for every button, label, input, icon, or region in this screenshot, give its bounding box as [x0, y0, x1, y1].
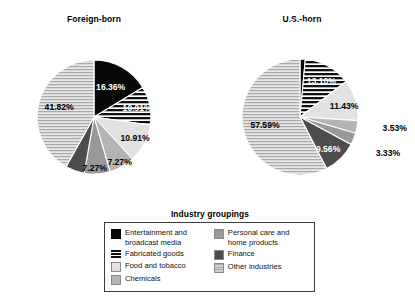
legend-item[interactable]: Personal care and home products — [214, 228, 308, 247]
legend-swatch-very-light-gray-icon — [111, 262, 121, 272]
pie-slice-label: 9.56% — [316, 144, 341, 154]
pie-slice-label: 7.27% — [107, 157, 132, 167]
pie-slice-label: 3.53% — [383, 123, 408, 133]
pie-slice-label: 5.45% — [56, 187, 81, 197]
pie-slice-label: 57.59% — [250, 120, 280, 130]
pie-slice-label: 3.33% — [376, 148, 401, 158]
legend-item[interactable]: Other industries — [214, 262, 308, 273]
pie-slice-label: 13.10% — [307, 76, 337, 86]
pie-chart-us-born: 1.46%13.10%11.43%3.53%3.33%9.56%57.59% — [240, 57, 360, 177]
legend-item-label: Personal care and home products — [228, 228, 290, 247]
pie-slice-label: 11.43% — [330, 101, 359, 111]
legend-item-label: Finance — [228, 249, 255, 259]
legend-item-label: Fabricated goods — [125, 249, 184, 259]
legend-item[interactable]: Finance — [214, 249, 308, 260]
legend-item[interactable]: Food and tobacco — [111, 261, 214, 272]
pie-slice-label: 10.91% — [123, 103, 153, 113]
legend-swatch-medium-gray-icon — [111, 275, 121, 285]
legend-item[interactable]: Entertainment and broadcast media — [111, 228, 214, 247]
pie-title-foreign-born: Foreign-born — [44, 14, 144, 24]
legend-swatch-dark-gray-icon — [214, 250, 224, 260]
legend-swatch-gray-icon — [214, 229, 224, 239]
legend-swatch-light-gray-horizontal-lines-icon — [214, 263, 224, 273]
legend-column-left: Entertainment and broadcast mediaFabrica… — [111, 228, 214, 287]
legend-item-label: Other industries — [228, 262, 282, 272]
pie-chart-figure: Foreign-born U.S.-born 16.36%10.91%10.91… — [0, 0, 415, 306]
pie-slice-label: 41.82% — [45, 102, 75, 112]
pie-slice-label: 7.27% — [83, 163, 108, 173]
legend-item[interactable]: Fabricated goods — [111, 249, 214, 259]
pie-slice-label: 16.36% — [96, 82, 126, 92]
pie-slice-label: 10.91% — [121, 133, 151, 143]
pie-slice-label: 1.46% — [290, 19, 315, 29]
pie-chart-foreign-born: 16.36%10.91%10.91%7.27%7.27%5.45%41.82% — [34, 57, 154, 177]
legend-item-label: Food and tobacco — [125, 261, 186, 271]
legend-item-label: Entertainment and broadcast media — [125, 228, 187, 247]
legend-item[interactable]: Chemicals — [111, 274, 214, 285]
pie-slices-usborn — [242, 59, 358, 175]
pie-slices-foreign — [37, 60, 151, 174]
legend-swatch-black-horizontal-stripes-icon — [111, 250, 121, 259]
legend-swatch-solid-black-icon — [111, 229, 121, 239]
legend-box: Entertainment and broadcast mediaFabrica… — [104, 222, 315, 292]
legend-title: Industry groupings — [95, 209, 325, 219]
legend-item-label: Chemicals — [125, 274, 160, 284]
legend-column-right: Personal care and home productsFinanceOt… — [214, 228, 308, 287]
